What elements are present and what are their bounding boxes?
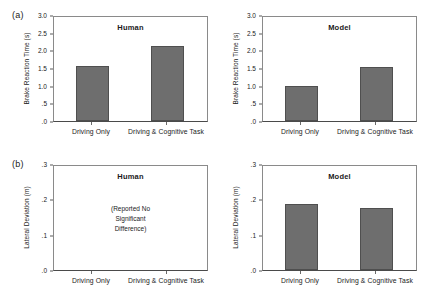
x-axis-labels-b-model: Driving Only Driving & Cognitive Task [262, 273, 417, 285]
y-tick: .1 [42, 232, 47, 239]
y-axis-ticks-b-model: .3 .2 .1 .0 [241, 165, 259, 271]
bar-b-model-driving-cognitive [360, 208, 393, 270]
note-line: (Reported No [54, 204, 207, 214]
note-line: Difference) [54, 224, 207, 234]
y-tick: 1.0 [247, 83, 256, 90]
y-axis-label-a-human: Brake Reaction Time (s) [20, 14, 32, 122]
y-tick: .2 [42, 197, 47, 204]
plot-area-b-human: Human (Reported No Significant Differenc… [53, 165, 208, 271]
chart-b-human: Lateral Deviation (m) .3 .2 .1 .0 Human … [0, 149, 216, 298]
plot-area-a-human: Human [53, 16, 208, 122]
figure-root: (a) Brake Reaction Time (s) 3.0 2.5 2.0 … [0, 0, 433, 299]
y-tick: 1.5 [38, 66, 47, 73]
y-tick: .5 [251, 101, 256, 108]
bar-a-model-driving-cognitive [360, 67, 393, 121]
y-axis-ticks-a-model: 3.0 2.5 2.0 1.5 1.0 .5 .0 [241, 16, 259, 122]
x-axis-labels-b-human: Driving Only Driving & Cognitive Task [53, 273, 208, 285]
chart-title-a-model: Model [263, 23, 416, 32]
y-tick: 3.0 [247, 13, 256, 20]
y-axis-label-b-model: Lateral Deviation (m) [229, 163, 241, 271]
x-axis-labels-a-model: Driving Only Driving & Cognitive Task [262, 124, 417, 136]
x-label: Driving Only [281, 128, 319, 135]
y-axis-label-b-human: Lateral Deviation (m) [20, 163, 32, 271]
y-tick: 1.0 [38, 83, 47, 90]
y-tick: .5 [42, 101, 47, 108]
y-tick: .3 [251, 162, 256, 169]
y-tick: .3 [42, 162, 47, 169]
x-label: Driving & Cognitive Task [337, 277, 413, 284]
chart-title-b-human: Human [54, 172, 207, 181]
y-tick: .0 [251, 119, 256, 126]
chart-a-human: Brake Reaction Time (s) 3.0 2.5 2.0 1.5 … [0, 0, 216, 149]
y-tick: 3.0 [38, 13, 47, 20]
bar-a-human-driving-only [76, 66, 109, 121]
x-label: Driving & Cognitive Task [337, 128, 413, 135]
no-significant-difference-note: (Reported No Significant Difference) [54, 204, 207, 234]
y-tick: 1.5 [247, 66, 256, 73]
plot-area-b-model: Model [262, 165, 417, 271]
x-label: Driving Only [72, 128, 110, 135]
x-label: Driving Only [281, 277, 319, 284]
x-label: Driving & Cognitive Task [128, 277, 204, 284]
y-tick: .1 [251, 232, 256, 239]
panel-a: (a) Brake Reaction Time (s) 3.0 2.5 2.0 … [0, 0, 433, 149]
y-axis-ticks-a-human: 3.0 2.5 2.0 1.5 1.0 .5 .0 [32, 16, 50, 122]
y-axis-label-a-model: Brake Reaction Time (s) [229, 14, 241, 122]
bar-b-model-driving-only [285, 204, 318, 270]
chart-a-model: Brake Reaction Time (s) 3.0 2.5 2.0 1.5 … [216, 0, 433, 149]
y-tick: 2.5 [38, 30, 47, 37]
y-tick: .0 [42, 268, 47, 275]
x-axis-labels-a-human: Driving Only Driving & Cognitive Task [53, 124, 208, 136]
chart-b-model: Lateral Deviation (m) .3 .2 .1 .0 Model [216, 149, 433, 298]
y-tick: .0 [251, 268, 256, 275]
y-tick: 2.0 [247, 48, 256, 55]
bar-a-human-driving-cognitive [151, 46, 184, 121]
y-tick: .2 [251, 197, 256, 204]
y-axis-ticks-b-human: .3 .2 .1 .0 [32, 165, 50, 271]
panel-b: (b) Lateral Deviation (m) .3 .2 .1 .0 Hu… [0, 149, 433, 298]
chart-title-b-model: Model [263, 172, 416, 181]
y-tick: .0 [42, 119, 47, 126]
x-label: Driving & Cognitive Task [128, 128, 204, 135]
y-tick: 2.0 [38, 48, 47, 55]
x-label: Driving Only [72, 277, 110, 284]
chart-title-a-human: Human [54, 23, 207, 32]
note-line: Significant [54, 214, 207, 224]
plot-area-a-model: Model [262, 16, 417, 122]
bar-a-model-driving-only [285, 86, 318, 121]
y-tick: 2.5 [247, 30, 256, 37]
